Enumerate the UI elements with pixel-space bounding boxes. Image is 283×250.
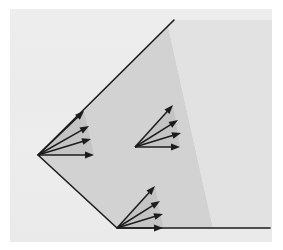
vector-cone-diagram bbox=[0, 0, 283, 250]
figure-root bbox=[0, 0, 283, 250]
